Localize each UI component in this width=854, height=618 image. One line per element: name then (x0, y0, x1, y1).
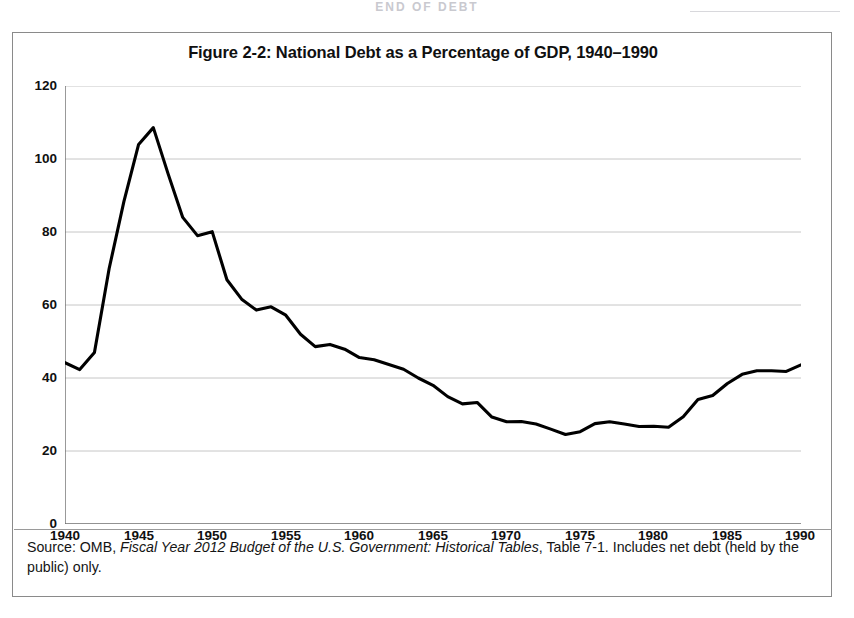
gridlines (65, 86, 801, 451)
chart-svg (65, 86, 801, 524)
y-axis-tick-label: 80 (13, 225, 57, 238)
source-divider (14, 529, 832, 530)
data-series-line (65, 128, 801, 435)
y-axis-tick-label: 120 (13, 79, 57, 92)
y-axis-tick-label: 20 (13, 444, 57, 457)
figure-source-note: Source: OMB, Fiscal Year 2012 Budget of … (27, 537, 821, 577)
chart-plot-area (65, 86, 801, 524)
source-prefix: Source: OMB, (27, 539, 120, 555)
figure-title: Figure 2-2: National Debt as a Percentag… (13, 43, 833, 62)
page-header-rule (690, 11, 840, 12)
source-title-italic: Fiscal Year 2012 Budget of the U.S. Gove… (120, 539, 539, 555)
y-axis-tick-label: 40 (13, 371, 57, 384)
y-axis-tick-label: 100 (13, 152, 57, 165)
figure-container: Figure 2-2: National Debt as a Percentag… (12, 32, 832, 597)
y-axis-tick-label: 60 (13, 298, 57, 311)
